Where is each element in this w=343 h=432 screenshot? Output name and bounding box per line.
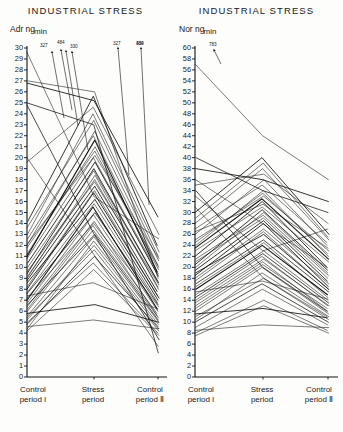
y-tick-label: 4 xyxy=(169,351,191,358)
offscale-value-label: 330 xyxy=(70,45,78,50)
chart-svg-adrenaline xyxy=(0,0,171,432)
y-tick-label: 5 xyxy=(1,318,23,325)
y-tick-label: 16 xyxy=(169,285,191,292)
offscale-value-label: 783 xyxy=(209,43,217,48)
offscale-value-label: 484 xyxy=(136,42,144,47)
panel-noradrenaline: INDUSTRIAL STRESS Nor ngmin 605856545250… xyxy=(171,0,342,432)
x-axis-category-label: Controlperiod I xyxy=(3,385,63,404)
y-tick-label: 40 xyxy=(169,154,191,161)
x-axis-category-line1: Control xyxy=(289,385,343,395)
data-line xyxy=(27,245,158,326)
y-tick-label: 19 xyxy=(1,165,23,172)
y-tick-label: 12 xyxy=(1,241,23,248)
data-line xyxy=(195,306,329,336)
y-tick-label: 20 xyxy=(1,154,23,161)
offscale-value-label: 327 xyxy=(113,42,121,47)
data-line xyxy=(28,136,158,265)
figure-industrial-stress-catecholamines: INDUSTRIAL STRESS Adr ngmin 302928272625… xyxy=(0,0,343,432)
y-tick-label: 2 xyxy=(169,362,191,369)
y-tick-label: 10 xyxy=(169,318,191,325)
y-tick-label: 16 xyxy=(1,198,23,205)
y-tick-label: 30 xyxy=(1,44,23,51)
y-tick-label: 48 xyxy=(169,110,191,117)
y-tick-label: 17 xyxy=(1,187,23,194)
y-tick-label: 25 xyxy=(1,99,23,106)
data-line xyxy=(196,262,328,311)
y-tick-label: 22 xyxy=(169,252,191,259)
x-axis-category-line2: period I xyxy=(3,395,63,405)
x-axis-category-line2: period xyxy=(63,395,123,405)
y-tick-label: 15 xyxy=(1,209,23,216)
y-tick-label: 18 xyxy=(169,274,191,281)
offscale-value-label: 484 xyxy=(57,41,65,46)
data-line xyxy=(195,325,329,330)
x-axis-category-label: Controlperiod Ⅱ xyxy=(289,385,343,404)
y-tick-label: 42 xyxy=(169,143,191,150)
y-tick-label: 26 xyxy=(1,88,23,95)
y-tick-label: 26 xyxy=(169,230,191,237)
y-tick-label: 30 xyxy=(169,209,191,216)
y-tick-label: 0 xyxy=(1,373,23,380)
y-tick-label: 11 xyxy=(1,252,23,259)
y-tick-label: 23 xyxy=(1,121,23,128)
data-line xyxy=(196,191,327,312)
data-line xyxy=(195,64,328,179)
y-tick-label: 32 xyxy=(169,198,191,205)
y-tick-label: 22 xyxy=(1,132,23,139)
x-axis-category-line1: Control xyxy=(171,385,231,395)
data-line xyxy=(28,215,158,312)
y-tick-label: 56 xyxy=(169,66,191,73)
y-tick-label: 10 xyxy=(1,263,23,270)
y-tick-label: 6 xyxy=(169,340,191,347)
offscale-arrows-noradrenaline xyxy=(214,50,221,64)
y-tick-label: 27 xyxy=(1,77,23,84)
y-tick-label: 20 xyxy=(169,263,191,270)
y-tick-label: 24 xyxy=(169,241,191,248)
y-tick-label: 21 xyxy=(1,143,23,150)
x-axis-category-line2: period Ⅱ xyxy=(289,395,343,405)
y-tick-label: 38 xyxy=(169,165,191,172)
y-tick-label: 24 xyxy=(1,110,23,117)
x-axis-category-line1: Stress xyxy=(63,385,123,395)
y-tick-label: 54 xyxy=(169,77,191,84)
x-axis-category-label: Stressperiod xyxy=(63,385,123,404)
y-tick-label: 52 xyxy=(169,88,191,95)
x-axis-category-line1: Stress xyxy=(232,385,292,395)
y-tick-label: 14 xyxy=(1,219,23,226)
offscale-arrow xyxy=(141,48,149,205)
data-line xyxy=(27,83,158,217)
y-tick-label: 7 xyxy=(1,296,23,303)
x-axis-category-line2: period I xyxy=(171,395,231,405)
y-tick-label: 58 xyxy=(169,55,191,62)
offscale-arrow xyxy=(118,48,129,175)
offscale-value-label: 327 xyxy=(40,44,48,49)
chart-svg-noradrenaline xyxy=(171,0,342,432)
offscale-arrow xyxy=(72,52,88,150)
y-tick-label: 29 xyxy=(1,55,23,62)
x-axis-category-label: Stressperiod xyxy=(232,385,292,404)
plot-area-noradrenaline: 6058565452504846444240383634323028262422… xyxy=(171,0,342,432)
y-tick-label: 18 xyxy=(1,176,23,183)
axes-adrenaline xyxy=(27,46,167,377)
y-tick-label: 12 xyxy=(169,307,191,314)
y-tick-label: 14 xyxy=(169,296,191,303)
y-tick-label: 1 xyxy=(1,362,23,369)
panel-adrenaline: INDUSTRIAL STRESS Adr ngmin 302928272625… xyxy=(0,0,171,432)
y-tick-label: 6 xyxy=(1,307,23,314)
data-series-group-noradrenaline xyxy=(195,64,329,335)
data-series-group-adrenaline xyxy=(27,52,159,352)
offscale-arrow xyxy=(214,50,221,64)
data-line xyxy=(28,320,159,329)
y-tick-label: 4 xyxy=(1,329,23,336)
y-tick-label: 13 xyxy=(1,230,23,237)
y-tick-label: 36 xyxy=(169,176,191,183)
y-tick-label: 3 xyxy=(1,340,23,347)
y-tick-label: 2 xyxy=(1,351,23,358)
y-tick-label: 44 xyxy=(169,132,191,139)
x-axis-category-label: Controlperiod I xyxy=(171,385,231,404)
plot-area-adrenaline: 3029282726252423222120191817161514131211… xyxy=(0,0,171,432)
y-tick-label: 60 xyxy=(169,44,191,51)
y-tick-label: 28 xyxy=(169,219,191,226)
x-axis-category-line2: period xyxy=(232,395,292,405)
y-tick-label: 34 xyxy=(169,187,191,194)
